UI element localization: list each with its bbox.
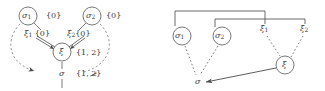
struck-value: 2 — [91, 70, 96, 78]
set-label-sigma1: {0} — [46, 12, 61, 20]
set-label-xi: {1, 2} — [76, 49, 101, 57]
arrow-xi-to-sigma — [206, 68, 276, 82]
node-label-sigma2: σ2 — [215, 32, 224, 40]
node-label-xi: ξ — [282, 61, 286, 69]
set-label-sigma: {1, 2} — [76, 70, 101, 78]
node-label-sigma1: σ1 — [22, 12, 31, 20]
node-label-sigma: σ — [195, 78, 200, 86]
figure-canvas: σ1 σ2 ξ σ {0} {0} {1, 2} {1, 2} ξ1 {0} ξ… — [0, 0, 325, 91]
right-diagram-graphics — [163, 0, 325, 91]
set-label-sigma2: {0} — [106, 12, 121, 20]
left-diagram-panel: σ1 σ2 ξ σ {0} {0} {1, 2} {1, 2} ξ1 {0} ξ… — [0, 0, 163, 91]
bracket-inner-sigma2-xi1 — [215, 19, 265, 27]
node-label-sigma1: σ1 — [175, 32, 184, 40]
dotted-xi2-to-xi — [291, 36, 303, 57]
bracket-right-xi1-xi2 — [265, 19, 305, 24]
node-label-xi2: ξ2 — [300, 25, 308, 33]
arrow-xi1-to-xi — [36, 38, 54, 49]
edge-label-xi2: ξ2{0} — [67, 30, 91, 38]
right-diagram-panel: σ1 σ2 ξ1 ξ2 ξ σ — [163, 0, 325, 91]
node-label-sigma2: σ2 — [86, 12, 95, 20]
bracket-outer-sigma1-xi1 — [175, 11, 265, 26]
dotted-sigma2-to-sigma — [200, 46, 218, 75]
node-label-sigma: σ — [59, 70, 64, 78]
dotted-xi1-to-xi — [267, 36, 280, 56]
edge-label-xi1: ξ1 {0} — [24, 30, 50, 38]
dotted-sigma1-to-sigma — [185, 46, 196, 75]
node-label-xi1: ξ1 — [260, 25, 268, 33]
node-label-xi: ξ — [59, 48, 63, 56]
